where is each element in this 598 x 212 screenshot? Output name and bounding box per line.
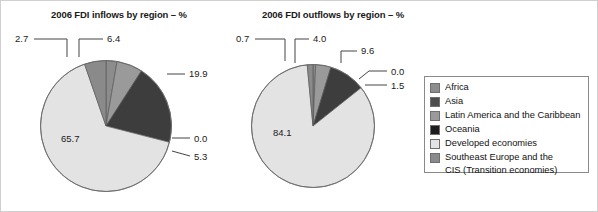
legend-label-latin-america: Latin America and the Caribbean [445,109,580,122]
legend-label-asia: Asia [445,95,463,108]
legend-swatch-latin-america [430,111,440,121]
legend-swatch-oceania [430,125,440,135]
legend-label-developed-economies: Developed economies [445,137,537,150]
legend-swatch-asia [430,97,440,107]
leader-lines-inflows [1,1,237,212]
legend: Africa Asia Latin America and the Caribb… [424,76,589,173]
legend-label-transition-economies: Southeast Europe and the CIS (Transition… [445,151,557,176]
legend-item-oceania[interactable]: Oceania [430,123,583,137]
legend-swatch-transition-economies [430,153,440,163]
legend-item-africa[interactable]: Africa [430,81,583,95]
legend-item-developed-economies[interactable]: Developed economies [430,137,583,151]
pie-chart-inflows: 2006 FDI inflows by region – % 2.7 6.4 1… [1,1,237,212]
legend-item-asia[interactable]: Asia [430,95,583,109]
legend-swatch-developed-economies [430,139,440,149]
pie-chart-outflows: 2006 FDI outflows by region – % 0.7 4.0 … [237,1,417,212]
figure-container: 2006 FDI inflows by region – % 2.7 6.4 1… [0,0,598,212]
legend-label-oceania: Oceania [445,123,480,136]
legend-label-africa: Africa [445,81,469,94]
legend-item-latin-america[interactable]: Latin America and the Caribbean [430,109,583,123]
legend-swatch-africa [430,83,440,93]
leader-lines-outflows [237,1,417,212]
legend-item-transition-economies[interactable]: Southeast Europe and the CIS (Transition… [430,151,583,176]
